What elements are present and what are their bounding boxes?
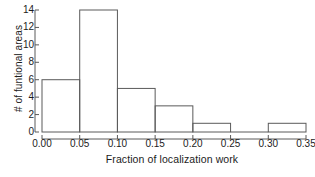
- histogram-bar: [193, 123, 231, 132]
- y-axis-tick-label: 6: [28, 75, 34, 85]
- histogram-bar: [268, 123, 306, 132]
- histogram-bar: [155, 106, 193, 132]
- histogram-bar: [42, 80, 80, 132]
- y-axis-tick-label: 12: [23, 22, 34, 32]
- histogram-bar: [117, 88, 155, 132]
- histogram-figure: # of funtional areas 02468101214 0.000.0…: [0, 0, 315, 177]
- x-axis-tick-label: 0.15: [140, 139, 170, 149]
- x-axis-title: Fraction of localization work: [38, 153, 306, 165]
- x-axis-tick-label: 0.20: [178, 139, 208, 149]
- x-axis-tick-label: 0.00: [27, 139, 57, 149]
- y-axis-tick-labels: 02468101214: [14, 0, 34, 145]
- y-axis-tick-label: 4: [28, 92, 34, 102]
- histogram-bar: [80, 10, 118, 132]
- y-axis-tick-label: 10: [23, 40, 34, 50]
- x-axis-tick-labels: 0.000.050.100.150.200.250.300.35: [0, 139, 315, 153]
- axes-group: [35, 10, 306, 139]
- y-axis-tick-label: 2: [28, 110, 34, 120]
- x-axis-tick-label: 0.35: [291, 139, 315, 149]
- y-axis-tick-label: 0: [28, 127, 34, 137]
- bars-group: [42, 10, 306, 132]
- y-axis-tick-label: 8: [28, 57, 34, 67]
- x-axis-tick-label: 0.30: [253, 139, 283, 149]
- x-axis-tick-label: 0.10: [102, 139, 132, 149]
- y-axis-tick-label: 14: [23, 5, 34, 15]
- x-axis-tick-label: 0.05: [65, 139, 95, 149]
- x-axis-tick-label: 0.25: [216, 139, 246, 149]
